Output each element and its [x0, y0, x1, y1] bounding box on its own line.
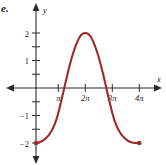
- y-tick-label-neg-2: −2: [20, 139, 29, 149]
- left-endpoint-dot: [34, 141, 39, 146]
- y-axis-up-arrow-icon: [33, 3, 40, 11]
- right-endpoint-dot: [137, 141, 142, 146]
- y-tick-label-neg-1: −1: [20, 111, 29, 121]
- x-axis-right-arrow-icon: [154, 85, 162, 92]
- y-axis-label: y: [42, 5, 47, 15]
- y-tick-label-2: 2: [25, 29, 29, 39]
- graph-figure: e. 2 1 −1 −2 π 2π 3π: [0, 0, 166, 165]
- x-axis-label: x: [156, 74, 161, 84]
- x-tick-label-2pi: 2π: [81, 93, 90, 103]
- y-axis-down-arrow-icon: [33, 156, 40, 164]
- x-tick-label-4pi: 4π: [135, 93, 144, 103]
- part-label: e.: [1, 3, 9, 14]
- coordinate-plane: 2 1 −1 −2 π 2π 3π 4π y x: [0, 0, 166, 165]
- x-axis-left-arrow-icon: [6, 85, 14, 92]
- y-tick-label-1: 1: [25, 56, 29, 66]
